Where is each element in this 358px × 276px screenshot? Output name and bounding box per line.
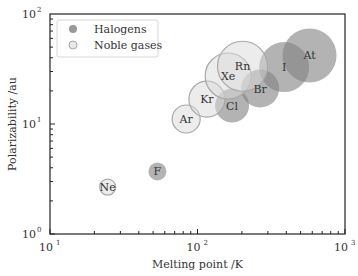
legend-marker-halogens [69,25,77,33]
point-label: Xe [221,70,235,83]
x-tick-label: 10 [334,241,348,254]
point-label: Cl [226,100,238,113]
svg-text:0: 0 [37,226,41,234]
y-tick-label: 10 [22,8,36,21]
point-label: F [154,165,162,178]
point-label: Kr [200,93,214,106]
point-label: I [282,61,286,74]
svg-text:1: 1 [37,116,41,124]
svg-text:3: 3 [351,239,355,247]
x-axis-label: Melting point /K [152,258,244,271]
legend: HalogensNoble gases [57,20,163,57]
point-label: Ar [179,113,194,126]
svg-text:2: 2 [37,6,41,14]
y-axis-label: Polarizability /au [6,77,19,171]
y-tick-label: 10 [22,118,36,131]
legend-marker-noble-gases [69,41,77,49]
x-tick-label: 10 [39,241,53,254]
legend-label: Noble gases [94,39,163,52]
y-tick-label: 10 [22,228,36,241]
chart: FClBrIAtNeArKrXeRn101102103100101102Melt… [0,0,358,276]
point-label: At [302,49,316,62]
svg-text:1: 1 [56,239,60,247]
point-label: Br [253,83,267,96]
point-label: Ne [100,181,116,194]
legend-label: Halogens [94,23,147,36]
point-label: Rn [235,60,250,73]
x-tick-label: 10 [187,241,201,254]
svg-text:2: 2 [204,239,208,247]
